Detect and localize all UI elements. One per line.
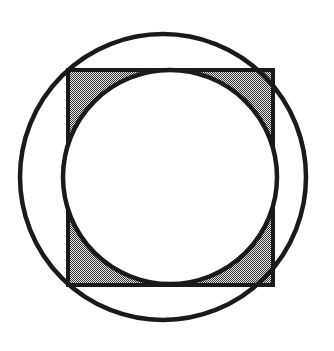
inner-circle bbox=[63, 70, 277, 284]
figure-svg bbox=[0, 0, 334, 351]
geometric-figure-canvas: Square inscribed in a circle with an ins… bbox=[0, 0, 334, 351]
